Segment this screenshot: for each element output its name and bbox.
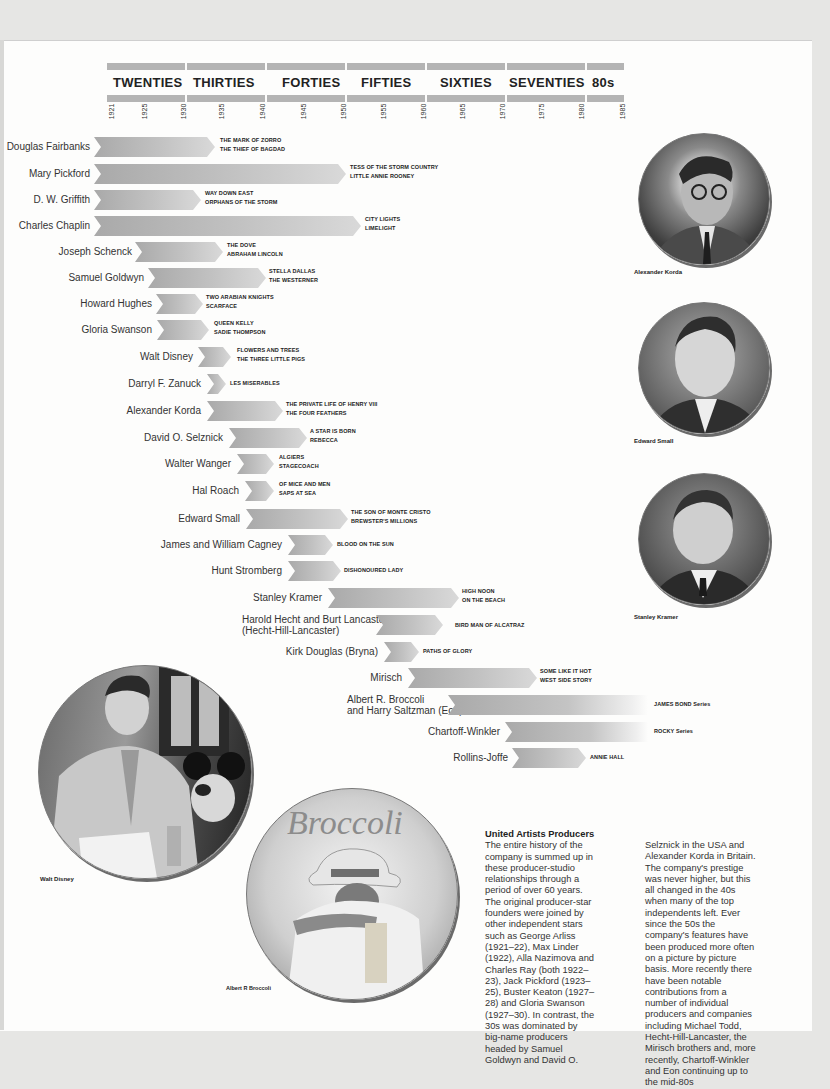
portrait-alexander-korda	[638, 133, 770, 265]
year-tick: 1930	[180, 102, 187, 122]
film-list: ROCKY Series	[654, 727, 693, 736]
decade-label: FIFTIES	[361, 75, 412, 90]
timeline-bar	[94, 190, 201, 210]
timeline-bar	[135, 242, 223, 262]
year-tick: 1925	[141, 102, 148, 122]
year-tick: 1980	[578, 102, 585, 122]
year-tick: 1965	[459, 102, 466, 122]
film-list: A STAR IS BORNREBECCA	[310, 427, 356, 445]
article-body: The entire history of the company is sum…	[485, 840, 595, 1066]
svg-text:Broccoli: Broccoli	[287, 804, 403, 841]
year-tick: 1960	[420, 102, 427, 122]
producer-name: Mary Pickford	[29, 168, 90, 179]
walt-disney-mickey-icon	[39, 666, 251, 878]
portrait-albert-broccoli: Broccoli	[246, 788, 458, 1000]
producer-name: Alexander Korda	[127, 405, 202, 416]
film-list: SOME LIKE IT HOTWEST SIDE STORY	[540, 667, 592, 685]
film-list: PATHS OF GLORY	[423, 647, 472, 656]
year-tick: 1950	[340, 102, 347, 122]
producer-name: Darryl F. Zanuck	[128, 378, 201, 389]
decade-label: THIRTIES	[193, 75, 255, 90]
producer-name: Albert R. Broccoliand Harry Saltzman (Eo…	[347, 694, 463, 716]
producer-name: Howard Hughes	[80, 298, 152, 309]
year-tick: 1940	[259, 102, 266, 122]
timeline-bar	[207, 401, 283, 421]
decade-band	[187, 95, 265, 102]
article-body: Selznick in the USA and Alexander Korda …	[645, 840, 757, 1089]
film-list: WAY DOWN EASTORPHANS OF THE STORM	[205, 189, 278, 207]
year-tick: 1935	[218, 102, 225, 122]
producer-name: Stanley Kramer	[253, 592, 322, 603]
year-tick: 1975	[538, 102, 545, 122]
article-column-1: United Artists Producers The entire hist…	[485, 829, 595, 1066]
film-list: TESS OF THE STORM COUNTRYLITTLE ANNIE RO…	[350, 163, 438, 181]
film-list: THE MARK OF ZORROTHE THIEF OF BAGDAD	[220, 136, 285, 154]
article-column-2: Selznick in the USA and Alexander Korda …	[645, 840, 757, 1089]
decade-band	[507, 95, 585, 102]
producer-name: Gloria Swanson	[81, 324, 152, 335]
timeline-bar	[156, 294, 203, 314]
producer-name: Hal Roach	[192, 485, 239, 496]
film-list: THE SON OF MONTE CRISTOBREWSTER'S MILLIO…	[351, 508, 431, 526]
portrait-stanley-kramer	[638, 473, 770, 605]
film-list: BIRD MAN OF ALCATRAZ	[455, 621, 525, 630]
timeline-bar	[246, 509, 348, 529]
producer-name: Charles Chaplin	[19, 220, 90, 231]
photo-caption: Walt Disney	[40, 876, 74, 882]
producer-name: Mirisch	[370, 672, 402, 683]
article-title: United Artists Producers	[485, 829, 595, 840]
timeline-bar	[148, 268, 266, 288]
timeline-bar	[94, 137, 215, 157]
year-tick: 1985	[619, 102, 626, 122]
timeline-bar	[157, 320, 209, 340]
film-list: OF MICE AND MENSAPS AT SEA	[279, 480, 330, 498]
producer-name: David O. Selznick	[144, 432, 223, 443]
year-tick: 1955	[380, 102, 387, 122]
timeline-bar	[448, 695, 648, 715]
film-list: TWO ARABIAN KNIGHTSSCARFACE	[206, 293, 274, 311]
producer-name: Edward Small	[178, 513, 240, 524]
producer-name: Chartoff-Winkler	[428, 726, 500, 737]
film-list: THE PRIVATE LIFE OF HENRY VIIITHE FOUR F…	[286, 400, 377, 418]
decade-label: FORTIES	[282, 75, 340, 90]
timeline-bar	[408, 668, 537, 688]
producer-name: Samuel Goldwyn	[68, 272, 144, 283]
year-tick: 1945	[300, 102, 307, 122]
year-tick: 1970	[499, 102, 506, 122]
timeline-bar	[288, 561, 341, 581]
film-list: BLOOD ON THE SUN	[337, 540, 394, 549]
timeline-bar	[376, 615, 443, 635]
photo-caption: Alexander Korda	[634, 269, 682, 275]
film-list: HIGH NOONON THE BEACH	[462, 587, 505, 605]
film-list: STELLA DALLASTHE WESTERNER	[269, 267, 318, 285]
film-list: DISHONOURED LADY	[344, 566, 403, 575]
person-silhouette-icon	[639, 303, 769, 433]
timeline-bar	[328, 588, 459, 608]
portrait-walt-disney	[38, 665, 252, 879]
decade-band	[187, 63, 265, 70]
decade-label: TWENTIES	[113, 75, 183, 90]
producer-name: Walter Wanger	[165, 458, 231, 469]
decade-band	[267, 63, 345, 70]
film-list: JAMES BOND Series	[654, 700, 710, 709]
photo-caption: Albert R Broccoli	[226, 985, 271, 991]
decade-label: SIXTIES	[440, 75, 492, 90]
decade-band	[587, 63, 624, 70]
producer-name: Walt Disney	[140, 351, 193, 362]
producer-name: Joseph Schenck	[59, 246, 132, 257]
decade-label: SEVENTIES	[509, 75, 585, 90]
producer-name: James and William Cagney	[161, 539, 282, 550]
timeline-bar	[229, 428, 307, 448]
timeline-bar	[505, 722, 648, 742]
producer-name: Kirk Douglas (Bryna)	[286, 646, 378, 657]
film-list: THE DOVEABRAHAM LINCOLN	[227, 241, 283, 259]
portrait-edward-small	[638, 302, 770, 434]
decade-band	[507, 63, 585, 70]
producer-name: Hunt Stromberg	[211, 565, 282, 576]
film-list: ALGIERSSTAGECOACH	[279, 453, 319, 471]
producer-name: Rollins-Joffe	[453, 752, 508, 763]
person-silhouette-icon	[639, 474, 769, 604]
person-silhouette-icon	[639, 134, 769, 264]
film-list: ANNIE HALL	[590, 753, 624, 762]
producer-name: Douglas Fairbanks	[7, 141, 90, 152]
